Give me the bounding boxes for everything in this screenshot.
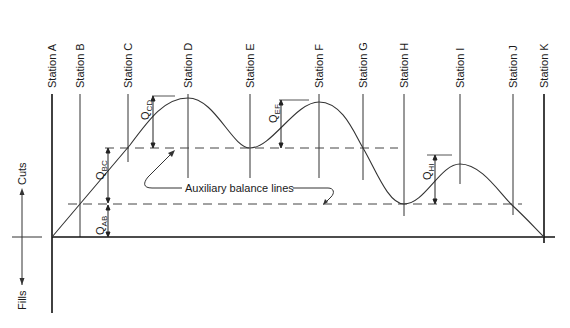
station-label-j: Station J [507,45,519,88]
aux-leaders [145,153,334,203]
station-label-a: Station A [46,43,58,88]
station-label-c: Station C [122,43,134,88]
cuts-arrow-icon [20,188,25,195]
mass-curve [52,98,544,237]
station-label-f: Station F [313,44,325,88]
q-bc-label: QBC [94,160,109,180]
station-label-g: Station G [357,42,369,88]
mass-haul-diagram: Auxiliary balance lines Station A Statio… [0,0,570,328]
balance-lines [68,148,522,204]
q-hi-label: QHI [421,163,436,180]
cuts-label: Cuts [16,162,28,185]
station-label-e: Station E [244,43,256,88]
station-label-b: Station B [74,43,86,88]
q-ef-label: QEF [267,104,282,123]
aux-balance-lines-label: Auxiliary balance lines [185,182,294,194]
station-label-h: Station H [398,43,410,88]
station-label-k: Station K [538,43,550,88]
fills-arrow-icon [20,278,25,285]
station-labels: Station A Station B Station C Station D … [46,42,550,88]
station-label-d: Station D [182,43,194,88]
fills-label: Fills [16,290,28,310]
station-label-i: Station I [454,48,466,88]
